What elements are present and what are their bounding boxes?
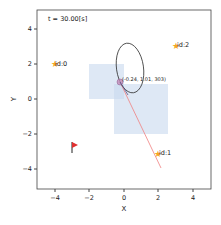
landmark-label: id:2 [177, 41, 189, 49]
y-tick-label: −2 [22, 130, 32, 138]
time-annotation: t = 30.00[s] [48, 15, 87, 23]
landmark-label: id:0 [55, 60, 67, 68]
x-axis: −4 −2 0 2 4 X [50, 189, 195, 213]
x-tick-label: 4 [191, 194, 195, 202]
y-tick-label: −4 [22, 165, 32, 173]
x-tick-label: 2 [156, 194, 160, 202]
y-tick-label: 4 [28, 25, 32, 33]
x-axis-label: X [122, 205, 127, 213]
y-axis-label: Y [10, 96, 18, 102]
robot-pose-label: (-0.24, 1.01, 303) [122, 76, 166, 82]
y-tick-label: 2 [28, 60, 32, 68]
landmark-id0: ★ id:0 [51, 59, 67, 69]
robot-map-plot: (-0.24, 1.01, 303) ★ id:0 ★ id:1 ★ id:2 … [0, 0, 221, 225]
landmark-label: id:1 [159, 149, 171, 157]
y-axis: 4 2 0 −2 −4 Y [10, 25, 37, 173]
x-tick-label: 0 [122, 194, 126, 202]
x-tick-label: −4 [50, 194, 60, 202]
y-tick-label: 0 [28, 95, 32, 103]
x-tick-label: −2 [84, 194, 94, 202]
